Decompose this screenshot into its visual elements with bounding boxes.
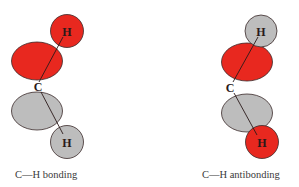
top-h-label: H (256, 25, 266, 39)
top-h-label: H (62, 25, 72, 39)
bottom-h-label: H (257, 136, 267, 150)
orbital-diagram-canvas: H C H C—H bonding H C H C—H antibonding (0, 0, 299, 187)
bottom-h-label: H (62, 136, 72, 150)
bonding-caption: C—H bonding (15, 169, 78, 180)
top-lobe-red (12, 42, 63, 80)
bottom-lobe-gray (12, 92, 63, 130)
antibonding-caption: C—H antibonding (202, 169, 281, 180)
top-lobe-red (222, 43, 273, 81)
carbon-label: C (34, 80, 43, 94)
bonding-diagram: H C H C—H bonding (12, 15, 84, 181)
antibonding-diagram: H C H C—H antibonding (202, 15, 281, 180)
carbon-label: C (226, 81, 235, 95)
